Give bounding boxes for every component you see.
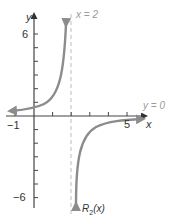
- curve-right-branch: [76, 119, 142, 205]
- function-label-arg: (x): [93, 203, 105, 214]
- curve-left-branch: [11, 24, 66, 111]
- vertical-asymptote-label: x = 2: [76, 10, 98, 20]
- x-tick-label-5: 5: [124, 119, 130, 130]
- function-label: R2(x): [82, 204, 105, 216]
- x-tick-label-neg1: −1: [7, 120, 20, 131]
- x-axis-label: x: [146, 119, 152, 130]
- y-axis-label: y: [26, 12, 32, 23]
- horizontal-asymptote-label: y = 0: [143, 101, 165, 111]
- y-tick-label-neg6: −6: [13, 192, 26, 203]
- y-tick-label-6: 6: [22, 29, 28, 40]
